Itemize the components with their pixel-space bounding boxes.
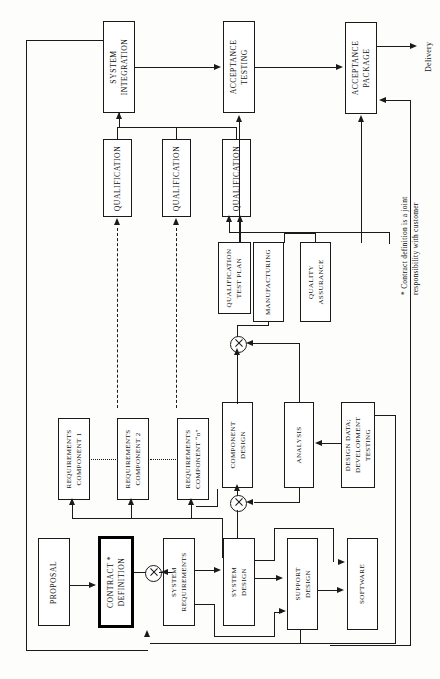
label-delivery: Delivery [424, 42, 433, 72]
connector-support-bottom-out [300, 630, 301, 643]
connector-qual2-up [176, 127, 177, 140]
node-component-design[interactable]: COMPONENT DESIGN [222, 402, 253, 488]
connector-sysint-to-acceptance-testing [135, 67, 215, 68]
junction-component-design-input [230, 495, 247, 512]
arrowhead-acceptance-testing-bottom-in [236, 115, 242, 122]
arrowhead-qualification-n-in-a [226, 215, 232, 222]
junction-contract-input [145, 565, 162, 582]
node-requirements-component-1[interactable]: REQUIREMENTS COMPONENT 1 [58, 418, 90, 500]
connector-sysreq-to-sysdesign [195, 570, 215, 571]
arrowhead-package-right-in [379, 97, 386, 103]
connector-software-rail-bottom [150, 643, 396, 644]
connector-analysis-down [299, 488, 300, 502]
connector-req1-req2-ellipsis [91, 459, 116, 460]
connector-outer-rail-bottom [26, 650, 148, 651]
connector-package-to-delivery [377, 46, 411, 47]
arrowhead-acceptance-package-in [336, 64, 343, 70]
node-requirements-component-1-label: REQUIREMENTS COMPONENT 1 [64, 430, 84, 489]
node-manufacturing[interactable]: MANUFACTURING [253, 242, 284, 322]
diagram-canvas: SYSTEM INTEGRATION ACCEPTANCE TESTING AC… [0, 0, 440, 679]
node-qualification-n[interactable]: QUALIFICATION [222, 139, 251, 217]
node-analysis[interactable]: ANALYSIS [284, 402, 314, 488]
arrowhead-junction-manufacturing-in [234, 348, 240, 355]
connector-bus-to-reqn [191, 503, 192, 519]
connector-bus-to-req1 [72, 503, 73, 519]
node-qualification-n-label: QUALIFICATION [231, 145, 242, 210]
node-qualification-test-plan[interactable]: QUALIFICATION TEST PLAN [218, 242, 251, 314]
connector-req2-reqn-ellipsis [150, 459, 176, 460]
connector-sysreq-out-h [195, 604, 215, 605]
arrowhead-reqn-in [188, 498, 194, 505]
connector-sysdesign-up-v [274, 528, 275, 561]
connector-proposal-to-contract [70, 585, 90, 586]
connector-reqn-out [196, 506, 218, 507]
connector-sysdesign-up-h2 [274, 528, 334, 529]
node-requirements-component-2[interactable]: REQUIREMENTS COMPONENT 2 [117, 418, 149, 500]
node-system-design[interactable]: SYSTEM DESIGN [223, 538, 255, 626]
arrowhead-qualification-1-in [114, 218, 120, 225]
arrowhead-support-design-in [276, 575, 283, 581]
connector-component-junction-feed [237, 510, 238, 538]
node-quality-assurance[interactable]: QUALITY ASSURANCE [300, 242, 331, 322]
connector-manufacturing-to-acceptance-testing [239, 121, 240, 243]
node-qualification-1-label: QUALIFICATION [112, 145, 123, 210]
node-requirements-component-n[interactable]: REQUIREMENTS COMPONENT “n” [177, 418, 209, 500]
node-manufacturing-label: MANUFACTURING [264, 249, 274, 315]
connector-req1-to-qual1-dashed [117, 228, 118, 408]
connector-testplan-bus-down [389, 232, 390, 244]
connector-qual1-up [117, 127, 118, 140]
node-system-requirements-label: SYSTEM REQUIREMENTS [169, 553, 189, 612]
connector-far-right-rail-into-package [386, 100, 411, 101]
arrowhead-delivery [410, 43, 417, 49]
connector-sysdesign-up-v2 [333, 528, 334, 562]
connector-sysdesign-to-support [255, 578, 277, 579]
node-system-integration-label: SYSTEM INTEGRATION [108, 39, 130, 96]
node-qualification-1[interactable]: QUALIFICATION [103, 139, 132, 217]
connector-qa-to-package-v2 [361, 121, 362, 149]
connector-to-support-design-b [274, 612, 282, 613]
connector-qualification-bus [117, 127, 237, 128]
connector-analysis-up [299, 343, 300, 403]
arrowhead-qualification-2-in [173, 218, 179, 225]
arrowhead-analysis-in [315, 440, 322, 446]
connector-qa-to-package-v [361, 147, 362, 243]
node-acceptance-package-label: ACCEPTANCE PACKAGE [350, 41, 372, 96]
node-software[interactable]: SOFTWARE [347, 538, 378, 630]
node-proposal[interactable]: PROPOSAL [38, 538, 70, 626]
connector-designdata-to-analysis [322, 443, 342, 444]
connector-analysis-up-to-junction [253, 343, 300, 344]
node-system-requirements[interactable]: SYSTEM REQUIREMENTS [163, 538, 195, 626]
connector-far-right-rail [410, 100, 411, 645]
connector-acceptance-testing-to-package [255, 67, 337, 68]
node-support-design[interactable]: SUPPORT DESIGN [287, 538, 318, 630]
connector-manufacturing-in-v [268, 322, 269, 326]
connector-reqn-out-v [217, 489, 218, 507]
node-contract-definition-label: CONTRACT * DEFINITION [105, 556, 127, 608]
arrowhead-system-design-in [214, 567, 221, 573]
connector-qualn-up [236, 127, 237, 140]
arrowhead-support-design-in-b [279, 608, 286, 614]
connector-sysreq-out-v2 [274, 612, 275, 637]
node-system-integration[interactable]: SYSTEM INTEGRATION [103, 21, 135, 113]
connector-sysreq-out-v [214, 604, 215, 636]
node-system-design-label: SYSTEM DESIGN [229, 567, 249, 597]
arrowhead-software-in-b [337, 587, 344, 593]
node-qualification-2-label: QUALIFICATION [171, 145, 182, 210]
connector-far-right-rail-bottom [330, 645, 411, 646]
arrowhead-req1-in [69, 498, 75, 505]
node-software-label: SOFTWARE [358, 564, 368, 604]
node-qualification-2[interactable]: QUALIFICATION [162, 139, 191, 217]
arrowhead-system-integration-in [116, 112, 122, 119]
node-design-data-label: DESIGN DATA; DEVELOPMENT TESTING [343, 417, 373, 473]
node-component-design-label: COMPONENT DESIGN [228, 421, 248, 468]
node-acceptance-package[interactable]: ACCEPTANCE PACKAGE [345, 22, 377, 114]
connector-sysreq-out-h2 [214, 636, 274, 637]
arrowhead-acceptance-testing-in [214, 64, 221, 70]
connector-software-rail [395, 415, 396, 643]
arrowhead-outer-rail-to-contract [144, 630, 150, 637]
node-acceptance-testing[interactable]: ACCEPTANCE TESTING [223, 21, 255, 113]
node-design-data[interactable]: DESIGN DATA; DEVELOPMENT TESTING [341, 402, 375, 488]
connector-bus-to-req2 [131, 503, 132, 519]
node-contract-definition[interactable]: CONTRACT * DEFINITION [98, 536, 134, 628]
node-quality-assurance-label: QUALITY ASSURANCE [306, 259, 326, 304]
